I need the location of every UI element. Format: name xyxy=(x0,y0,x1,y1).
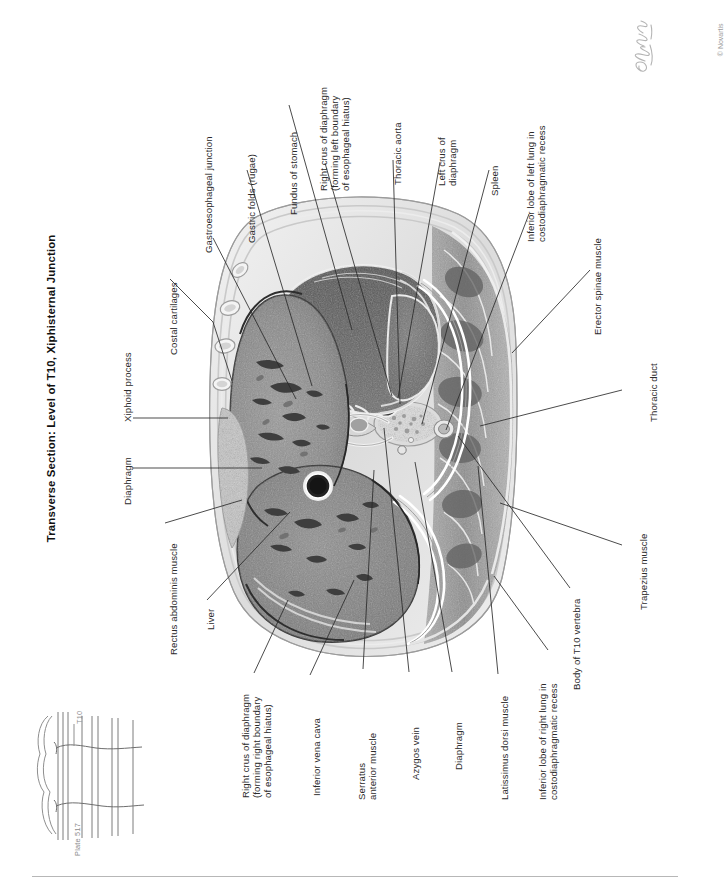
label-body-of-t10-vertebra: Body of T10 vertebra xyxy=(571,599,582,690)
plate-number: Plate 517 xyxy=(74,823,83,856)
label-inferior-vena-cava: Inferior vena cava xyxy=(311,718,322,796)
transverse-section-image xyxy=(196,186,526,666)
label-right-crus-right-boundary: Right crus of diaphragm (forming right b… xyxy=(240,694,273,798)
label-diaphragm-bottom: Diaphragm xyxy=(453,722,464,770)
label-erector-spinae-muscle: Erector spinae muscle xyxy=(592,238,603,335)
orientation-key: T10 Plate 517 xyxy=(30,690,165,865)
key-level-label: T10 xyxy=(76,711,85,724)
label-liver: Liver xyxy=(205,609,216,630)
label-xiphoid-process: Xiphoid process xyxy=(122,352,133,422)
label-right-crus-left-boundary: Right crus of diaphragm (forming left bo… xyxy=(318,87,351,191)
label-gastric-folds: Gastric folds (rugae) xyxy=(246,154,257,243)
label-diaphragm-left: Diaphragm xyxy=(122,457,133,505)
label-spleen: Spleen xyxy=(489,166,500,196)
copyright-notice: © Novartis xyxy=(690,23,728,74)
label-inferior-lobe-right-lung: Inferior lobe of right lung in costodiap… xyxy=(537,683,559,800)
label-costal-cartilages: Costal cartilages xyxy=(168,282,179,355)
label-trapezius-muscle: Trapezius muscle xyxy=(638,534,649,610)
page-title: Transverse Section: Level of T10, Xiphis… xyxy=(22,235,79,560)
artist-signature xyxy=(600,14,692,76)
label-fundus-of-stomach: Fundus of stomach xyxy=(288,132,299,215)
label-azygos-vein: Azygos vein xyxy=(410,727,421,780)
label-left-crus-of-diaphragm: Left crus of diaphragm xyxy=(436,137,458,186)
label-rectus-abdominis-muscle: Rectus abdominis muscle xyxy=(168,543,179,655)
footer-rule xyxy=(32,876,678,877)
label-inferior-lobe-left-lung: Inferior lobe of left lung in costodiaph… xyxy=(525,125,547,242)
label-thoracic-duct: Thoracic duct xyxy=(648,363,659,422)
label-thoracic-aorta: Thoracic aorta xyxy=(392,122,403,185)
label-latissimus-dorsi-muscle: Latissimus dorsi muscle xyxy=(499,696,510,800)
label-gastroesophageal-junction: Gastroesophageal junction xyxy=(203,136,214,253)
label-serratus-anterior-muscle: Serratus anterior muscle xyxy=(356,733,378,800)
